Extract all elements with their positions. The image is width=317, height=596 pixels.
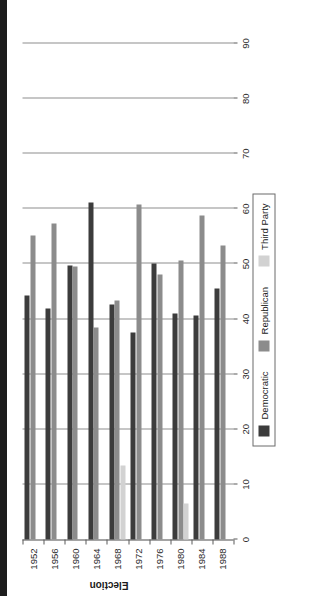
bar-slot-republican-1960 xyxy=(72,43,77,539)
bar-third-party-1968 xyxy=(120,465,125,539)
bar-republican-1968 xyxy=(114,300,119,539)
bar-democratic-1956 xyxy=(45,308,50,539)
bar-republican-1988 xyxy=(220,245,225,539)
bar-slot-democratic-1976 xyxy=(151,43,156,539)
bar-republican-1964 xyxy=(93,327,98,539)
value-tick-90 xyxy=(233,42,237,43)
bar-democratic-1976 xyxy=(151,263,156,539)
bar-group-1960 xyxy=(64,43,85,539)
value-tick-label-30: 30 xyxy=(239,368,250,379)
legend-item-third-party: Third Party xyxy=(258,203,269,266)
bar-democratic-1980 xyxy=(172,313,177,539)
category-tick-1976 xyxy=(149,539,150,544)
bar-slot-republican-1976 xyxy=(157,43,162,539)
value-tick-label-10: 10 xyxy=(239,479,250,490)
category-label-1980: 1980 xyxy=(175,548,186,569)
legend-swatch-democratic xyxy=(258,425,269,436)
legend-swatch-third-party xyxy=(258,255,269,266)
category-label-1956: 1956 xyxy=(48,548,59,569)
value-tick-label-90: 90 xyxy=(239,38,250,49)
category-tick-1972 xyxy=(128,539,129,544)
bar-slot-third-party-1972 xyxy=(141,43,146,539)
bar-slot-third-party-1960 xyxy=(78,43,83,539)
value-tick-70 xyxy=(233,152,237,153)
value-tick-20 xyxy=(233,428,237,429)
value-tick-60 xyxy=(233,207,237,208)
bar-slot-republican-1972 xyxy=(136,43,141,539)
bar-democratic-1984 xyxy=(193,315,198,539)
rotated-chart-stage: Election Percentage Vote 010203040506070… xyxy=(0,0,317,596)
category-tick-1988 xyxy=(212,539,213,544)
value-tick-50 xyxy=(233,262,237,263)
bar-slot-third-party-1976 xyxy=(162,43,167,539)
bar-slot-third-party-1964 xyxy=(99,43,104,539)
bar-slot-democratic-1968 xyxy=(109,43,114,539)
category-label-1960: 1960 xyxy=(69,548,80,569)
value-tick-label-50: 50 xyxy=(239,258,250,269)
bar-slot-democratic-1952 xyxy=(24,43,29,539)
category-tick-1956 xyxy=(43,539,44,544)
bar-group-1976 xyxy=(149,43,170,539)
category-label-1972: 1972 xyxy=(133,548,144,569)
value-tick-label-60: 60 xyxy=(239,203,250,214)
category-tick-1952 xyxy=(22,539,23,544)
bar-group-1964 xyxy=(85,43,106,539)
bar-group-1952 xyxy=(22,43,43,539)
plot-area: 0102030405060708090195219561960196419681… xyxy=(22,43,233,540)
category-tick-1980 xyxy=(170,539,171,544)
bar-democratic-1988 xyxy=(214,288,219,539)
bar-group-1956 xyxy=(43,43,64,539)
bar-republican-1976 xyxy=(157,274,162,539)
legend-item-republican: Republican xyxy=(258,286,269,351)
bar-republican-1952 xyxy=(30,235,35,539)
category-label-1976: 1976 xyxy=(154,548,165,569)
bar-group-1980 xyxy=(170,43,191,539)
chart-legend: Democratic Republican Third Party xyxy=(252,193,275,446)
bar-democratic-1972 xyxy=(130,332,135,539)
bar-group-1968 xyxy=(106,43,127,539)
bar-slot-democratic-1960 xyxy=(67,43,72,539)
bar-democratic-1968 xyxy=(109,304,114,539)
legend-swatch-republican xyxy=(258,340,269,351)
bar-slot-democratic-1988 xyxy=(214,43,219,539)
category-label-1984: 1984 xyxy=(196,548,207,569)
bar-democratic-1952 xyxy=(24,295,29,539)
value-tick-30 xyxy=(233,373,237,374)
bar-slot-third-party-1984 xyxy=(205,43,210,539)
bar-republican-1980 xyxy=(178,260,183,539)
bar-democratic-1964 xyxy=(88,202,93,539)
value-tick-80 xyxy=(233,97,237,98)
category-tick-1960 xyxy=(64,539,65,544)
bar-slot-republican-1984 xyxy=(199,43,204,539)
legend-label-democratic: Democratic xyxy=(258,371,269,419)
category-tick-1964 xyxy=(85,539,86,544)
bar-slot-democratic-1956 xyxy=(45,43,50,539)
bar-democratic-1960 xyxy=(67,265,72,539)
bar-slot-democratic-1984 xyxy=(193,43,198,539)
category-axis-title: Election xyxy=(89,579,128,590)
bar-slot-democratic-1980 xyxy=(172,43,177,539)
bar-slot-republican-1988 xyxy=(220,43,225,539)
bar-third-party-1980 xyxy=(183,503,188,539)
category-label-1964: 1964 xyxy=(90,548,101,569)
bar-group-1988 xyxy=(212,43,233,539)
category-tick-end xyxy=(233,539,234,544)
bar-republican-1960 xyxy=(72,266,77,539)
bar-slot-third-party-1980 xyxy=(183,43,188,539)
bar-slot-republican-1956 xyxy=(51,43,56,539)
value-tick-label-20: 20 xyxy=(239,423,250,434)
value-tick-10 xyxy=(233,483,237,484)
legend-item-democratic: Democratic xyxy=(258,371,269,436)
bar-slot-third-party-1968 xyxy=(120,43,125,539)
legend-label-republican: Republican xyxy=(258,286,269,334)
bar-republican-1956 xyxy=(51,223,56,539)
bar-group-1984 xyxy=(191,43,212,539)
bar-republican-1984 xyxy=(199,215,204,539)
category-label-1952: 1952 xyxy=(27,548,38,569)
bar-slot-republican-1952 xyxy=(30,43,35,539)
bar-slot-democratic-1972 xyxy=(130,43,135,539)
bar-republican-1972 xyxy=(136,204,141,539)
legend-label-third-party: Third Party xyxy=(258,203,269,249)
bar-slot-republican-1964 xyxy=(93,43,98,539)
bar-slot-republican-1968 xyxy=(114,43,119,539)
